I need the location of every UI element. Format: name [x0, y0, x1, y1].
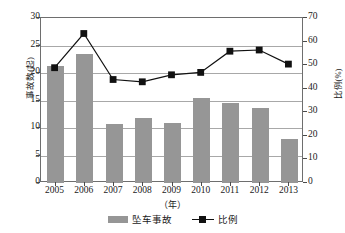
- y-axis-right-tick-label: 40: [308, 83, 318, 93]
- y-axis-left-tick-mark: [36, 182, 40, 183]
- legend-item-line: 比例: [192, 212, 238, 226]
- bar-2008: [135, 118, 152, 183]
- x-axis-title: （年）: [0, 198, 345, 211]
- y-axis-right-tick-mark: [303, 135, 307, 136]
- legend-label-line: 比例: [218, 212, 238, 226]
- x-axis-tick-mark: [55, 182, 56, 186]
- legend-item-bar: 坠车事故: [108, 212, 172, 226]
- x-axis-tick-mark: [230, 182, 231, 186]
- bar-2010: [193, 98, 210, 183]
- x-axis-tick-mark: [288, 182, 289, 186]
- legend-line-marker-icon: [192, 215, 214, 224]
- legend-bar-swatch-icon: [108, 216, 128, 223]
- bar-2012: [252, 108, 269, 183]
- y-axis-right-tick-label: 30: [308, 106, 318, 116]
- y-axis-right-title: 比例(%): [331, 39, 343, 129]
- gridline: [41, 46, 302, 47]
- plot-area: [40, 17, 303, 182]
- bar-2005: [47, 66, 64, 183]
- x-axis-tick-mark: [84, 182, 85, 186]
- bar-2007: [106, 124, 123, 183]
- y-axis-left-tick-mark: [36, 45, 40, 46]
- y-axis-right-tick-mark: [303, 158, 307, 159]
- y-axis-right-tick-mark: [303, 111, 307, 112]
- y-axis-right-tick-mark: [303, 88, 307, 89]
- bar-2009: [164, 123, 181, 183]
- bar-2013: [281, 139, 298, 184]
- y-axis-right-tick-label: 10: [308, 153, 318, 163]
- x-axis-tick-label-2013: 2013: [268, 186, 308, 196]
- legend-label-bar: 坠车事故: [132, 212, 172, 226]
- y-axis-left-tick-mark: [36, 100, 40, 101]
- y-axis-right-tick-label: 0: [308, 177, 313, 187]
- y-axis-right-tick-label: 60: [308, 36, 318, 46]
- x-axis-tick-mark: [142, 182, 143, 186]
- chart-legend: 坠车事故 比例: [0, 212, 345, 226]
- chart-figure: 051015202530 010203040506070 20052006200…: [0, 0, 345, 233]
- y-axis-left-tick-mark: [36, 72, 40, 73]
- y-axis-left-tick-mark: [36, 17, 40, 18]
- y-axis-right-tick-mark: [303, 41, 307, 42]
- y-axis-right-tick-label: 70: [308, 12, 318, 22]
- y-axis-right-tick-mark: [303, 17, 307, 18]
- x-axis-tick-mark: [201, 182, 202, 186]
- y-axis-right-tick-label: 50: [308, 59, 318, 69]
- y-axis-right-tick-label: 20: [308, 130, 318, 140]
- x-axis-tick-mark: [172, 182, 173, 186]
- x-axis-tick-mark: [113, 182, 114, 186]
- y-axis-left-tick-mark: [36, 127, 40, 128]
- y-axis-left-tick-mark: [36, 155, 40, 156]
- y-axis-right-tick-mark: [303, 64, 307, 65]
- bar-2006: [76, 54, 93, 183]
- x-axis-tick-mark: [259, 182, 260, 186]
- y-axis-right-tick-mark: [303, 182, 307, 183]
- bar-2011: [222, 103, 239, 183]
- y-axis-left-title: 事故数(起): [23, 33, 35, 123]
